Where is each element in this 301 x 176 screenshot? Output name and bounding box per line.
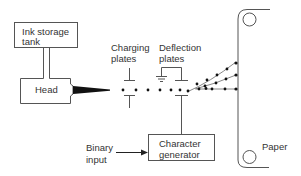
ink-droplets-icon [122, 61, 238, 92]
deflection-plates-label-line2: plates [159, 53, 184, 64]
charging-plates-icon [124, 68, 135, 108]
deflection-plates-label-line1: Deflection [159, 42, 201, 53]
ink-tank-label-line2: tank [22, 36, 40, 47]
head-label: Head [35, 84, 58, 95]
charging-plates-label-line1: Charging [111, 42, 150, 53]
charging-plates-label-line2: plates [111, 53, 136, 64]
ink-jet-printer-diagram: Ink storage tank Head Charging plates De… [0, 0, 301, 176]
character-generator-label-line1: Character [159, 138, 201, 149]
paper-label: Paper [262, 141, 287, 152]
paper-roller-bottom-icon [243, 151, 256, 164]
ground-symbol-icon [156, 77, 167, 82]
arrow-right-icon [141, 150, 148, 156]
ink-feed-pipe [21, 48, 74, 104]
trajectory-upper [187, 62, 236, 92]
paper-roller-top-icon [243, 13, 256, 26]
binary-input-label-line1: Binary [86, 142, 113, 153]
ink-jet-stream-icon [73, 86, 110, 94]
character-generator-label-line2: generator [159, 149, 200, 160]
deflection-plates-icon [162, 68, 189, 135]
binary-input-label-line2: input [86, 154, 107, 165]
